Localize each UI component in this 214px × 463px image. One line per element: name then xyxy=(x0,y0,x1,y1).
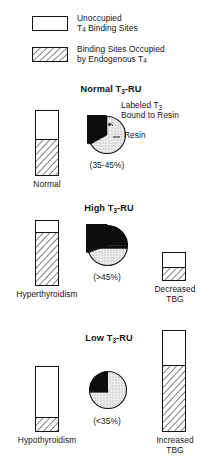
legend-line-2: by Endogenous T4 xyxy=(77,55,165,65)
caption-line-2: TBG xyxy=(166,445,183,455)
figure-thyroid-t3ru: Unoccupied T4 Binding Sites Binding Site… xyxy=(0,0,214,463)
subscript: 3 xyxy=(112,337,116,344)
subscript: 3 xyxy=(121,88,125,95)
bar-normal xyxy=(35,110,59,176)
bar-normal-occupied-fill xyxy=(36,140,58,175)
bar-decreased-tbg xyxy=(162,252,186,281)
panel-title-high: High T3-RU xyxy=(2,203,214,213)
bar-increased-tbg-occupied-fill xyxy=(163,366,185,431)
pie-low-t3ru xyxy=(88,370,128,410)
caption-line-2: TBG xyxy=(166,294,183,304)
pie-high-percent-label: (>45%) xyxy=(77,272,137,282)
open-rectangle-icon xyxy=(32,16,68,31)
bar-increased-tbg xyxy=(162,330,186,432)
subscript: 4 xyxy=(82,26,86,33)
bar-hypothyroidism-occupied-fill xyxy=(36,418,58,431)
subscript: 3 xyxy=(159,104,163,111)
caption-line-1: Increased xyxy=(156,435,193,445)
bar-hyperthyroidism-caption: Hyperthyroidism xyxy=(1,290,93,300)
callout-line-2: Bound to Resin xyxy=(121,111,179,121)
pie-normal-percent-label: (35-45%) xyxy=(77,160,137,170)
bar-hypothyroidism-divider xyxy=(36,417,58,418)
bar-normal-caption: Normal xyxy=(11,180,83,190)
legend-item-unoccupied-label: Unoccupied T4 Binding Sites xyxy=(77,14,138,34)
bar-decreased-tbg-divider xyxy=(163,267,185,268)
bar-hypothyroidism-caption: Hypothyroidism xyxy=(2,436,92,446)
legend-item-unoccupied: Unoccupied T4 Binding Sites xyxy=(32,14,138,34)
bar-decreased-tbg-occupied-fill xyxy=(163,268,185,280)
legend-line-1: Binding Sites Occupied xyxy=(77,44,165,54)
bar-hypothyroidism xyxy=(35,366,59,432)
bar-hyperthyroidism-occupied-fill xyxy=(36,233,58,285)
legend-item-occupied: Binding Sites Occupied by Endogenous T4 xyxy=(32,45,165,65)
bar-hyperthyroidism-divider xyxy=(36,232,58,233)
legend-line-1: Unoccupied xyxy=(77,13,122,23)
pie-low-percent-label: (<35%) xyxy=(77,416,137,426)
pie-normal-t3ru xyxy=(87,115,127,155)
bar-increased-tbg-caption: Increased TBG xyxy=(140,436,210,455)
subscript: 3 xyxy=(113,207,117,214)
legend-item-occupied-label: Binding Sites Occupied by Endogenous T4 xyxy=(77,45,165,65)
bar-hyperthyroidism xyxy=(35,220,59,286)
panel-title-normal: Normal T3-RU xyxy=(4,84,214,94)
callout-labeled-t3-bound-to-resin: Labeled T3 Bound to Resin xyxy=(121,101,179,121)
callout-line-1: Labeled T3 xyxy=(121,100,162,110)
caption-line-1: Decreased xyxy=(155,284,196,294)
bar-normal-divider xyxy=(36,139,58,140)
legend-line-2: T4 Binding Sites xyxy=(77,24,138,34)
bar-decreased-tbg-caption: Decreased TBG xyxy=(140,285,210,304)
bar-increased-tbg-divider xyxy=(163,365,185,366)
pie-high-t3ru xyxy=(86,224,129,267)
subscript: 4 xyxy=(143,57,147,64)
callout-resin: Resin xyxy=(124,131,146,141)
hatched-rectangle-icon xyxy=(32,47,68,62)
